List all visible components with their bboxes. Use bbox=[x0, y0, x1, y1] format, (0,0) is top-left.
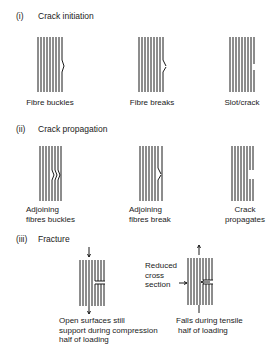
fibre-buckles-drawing bbox=[38, 37, 64, 92]
slot-crack-drawing bbox=[230, 37, 254, 92]
annotation-reduced-cross-section: Reduced cross section bbox=[145, 261, 177, 290]
fibre-diagrams bbox=[0, 0, 271, 352]
label-line: fibres break bbox=[129, 215, 171, 225]
label-adjoining-fibres-buckles: Adjoining fibres buckles bbox=[26, 205, 75, 224]
label-line: Crack bbox=[220, 205, 270, 215]
label-adjoining-fibres-break: Adjoining fibres break bbox=[129, 205, 171, 224]
label-fibre-breaks: Fibre breaks bbox=[124, 98, 180, 108]
label-line: fibres buckles bbox=[26, 215, 75, 225]
fibre-breaks-drawing bbox=[139, 37, 166, 92]
tensile-fracture-drawing bbox=[179, 245, 213, 313]
adjoining-fibres-buckles-drawing bbox=[40, 146, 61, 201]
label-line: Adjoining bbox=[26, 205, 75, 215]
label-line: half of loading bbox=[176, 326, 243, 336]
label-compression-fracture: Open surfaces still support during compr… bbox=[59, 316, 158, 345]
adjoining-fibres-break-drawing bbox=[140, 146, 162, 201]
label-line: support during compression bbox=[59, 326, 158, 336]
label-line: Adjoining bbox=[129, 205, 171, 215]
label-line: half of loading bbox=[59, 335, 158, 345]
label-slot-crack: Slot/crack bbox=[216, 98, 268, 108]
label-crack-propagates: Crack propagates bbox=[220, 205, 270, 224]
compression-fracture-drawing bbox=[80, 247, 105, 314]
label-line: Open surfaces still bbox=[59, 316, 158, 326]
label-line: Reduced bbox=[145, 261, 177, 271]
label-line: propagates bbox=[220, 215, 270, 225]
label-line: cross bbox=[145, 271, 177, 281]
label-line: Falls during tensile bbox=[176, 316, 243, 326]
label-line: section bbox=[145, 280, 177, 290]
label-tensile-fracture: Falls during tensile half of loading bbox=[176, 316, 243, 335]
label-fibre-buckles: Fibre buckles bbox=[22, 98, 78, 108]
crack-propagates-drawing bbox=[232, 146, 253, 201]
